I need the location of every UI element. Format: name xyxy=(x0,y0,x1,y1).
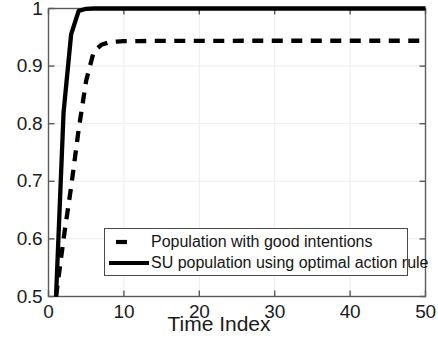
legend-item-solid: SU population using optimal action rule xyxy=(105,252,407,273)
plot-canvas xyxy=(0,0,438,339)
legend-label-dashed: Population with good intentions xyxy=(151,233,373,251)
legend-swatch-dashed xyxy=(105,236,151,248)
chart-legend: Population with good intentions SU popul… xyxy=(104,228,408,276)
y-tick-label: 0.8 xyxy=(17,113,43,135)
y-tick-label: 0.9 xyxy=(17,55,43,77)
y-tick-label: 0.7 xyxy=(17,170,43,192)
legend-item-dashed: Population with good intentions xyxy=(105,231,407,252)
y-tick-label: 1 xyxy=(32,0,42,20)
x-axis-label: Time Index xyxy=(0,312,438,336)
y-tick-label: 0.6 xyxy=(17,228,43,250)
legend-swatch-solid xyxy=(105,257,151,269)
chart-figure: 0.50.60.70.80.91 01020304050 Time Index … xyxy=(0,0,438,339)
y-tick-label: 0.5 xyxy=(17,286,43,308)
legend-label-solid: SU population using optimal action rule xyxy=(151,254,429,272)
